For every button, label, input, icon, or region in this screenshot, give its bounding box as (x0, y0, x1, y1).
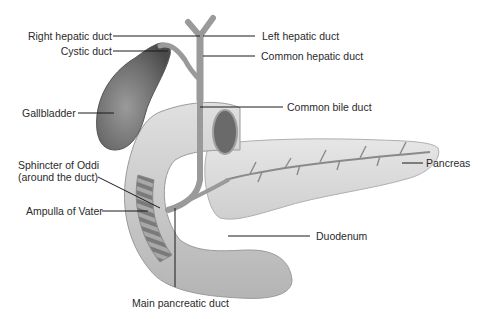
label-sphincter-of-oddi-line1: Sphincter of Oddi (18, 159, 99, 171)
label-right-hepatic-duct: Right hepatic duct (8, 30, 112, 42)
label-duodenum: Duodenum (316, 230, 367, 242)
label-cystic-duct: Cystic duct (8, 45, 112, 57)
label-gallbladder: Gallbladder (22, 107, 76, 119)
label-common-bile-duct: Common bile duct (287, 101, 372, 113)
label-sphincter-of-oddi-line2: (around the duct) (18, 171, 98, 183)
label-pancreas: Pancreas (426, 157, 470, 169)
label-ampulla-of-vater: Ampulla of Vater (26, 205, 103, 217)
label-left-hepatic-duct: Left hepatic duct (262, 30, 339, 42)
label-main-pancreatic-duct: Main pancreatic duct (132, 297, 229, 309)
label-common-hepatic-duct: Common hepatic duct (261, 50, 363, 62)
pancreas-shape (205, 139, 439, 219)
